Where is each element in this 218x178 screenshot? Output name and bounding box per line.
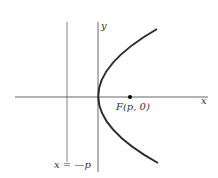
directrix-label: x = —p <box>54 159 91 170</box>
x-axis-label: x <box>201 95 207 106</box>
y-axis-label: y <box>100 20 107 31</box>
parabola-diagram: y x F(p, 0) x = —p <box>0 0 218 178</box>
focus-point <box>128 95 132 99</box>
parabola-curve <box>98 29 158 163</box>
focus-label: F(p, 0) <box>115 101 150 112</box>
